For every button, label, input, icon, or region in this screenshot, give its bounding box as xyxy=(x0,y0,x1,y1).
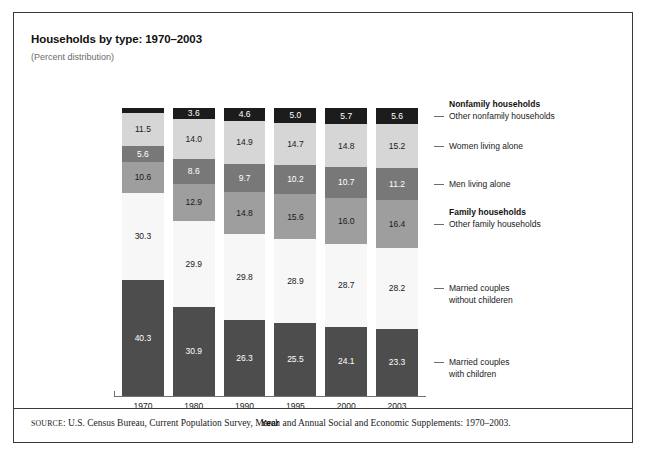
legend-group-title: Family households xyxy=(449,207,526,217)
bar-segment-value: 8.6 xyxy=(188,167,200,176)
bar-stack: 1.711.55.610.630.340.3 xyxy=(122,108,164,396)
bar-segment[interactable]: 5.0 xyxy=(274,108,316,122)
bar-segment-value: 14.0 xyxy=(185,135,202,144)
bar-column[interactable]: 5.615.211.216.428.223.3 xyxy=(376,108,418,396)
chart-subtitle: (Percent distribution) xyxy=(31,52,202,62)
chart-plot-area: 1.711.55.610.630.340.33.614.08.612.929.9… xyxy=(109,108,429,408)
bar-segment-value: 16.4 xyxy=(389,220,406,229)
bar-segment[interactable]: 10.6 xyxy=(122,162,164,193)
bar-segment-value: 14.7 xyxy=(287,140,304,149)
bar-segment[interactable]: 14.8 xyxy=(224,192,266,235)
legend-entry[interactable]: Other family households xyxy=(434,219,541,231)
bar-segment[interactable]: 29.8 xyxy=(224,234,266,320)
bar-segment[interactable]: 3.6 xyxy=(173,108,215,118)
legend-leader-dash xyxy=(434,184,444,185)
stacked-bar-series-container: 1.711.55.610.630.340.33.614.08.612.929.9… xyxy=(122,108,418,396)
bar-segment[interactable]: 24.1 xyxy=(325,327,367,396)
bar-segment[interactable]: 25.5 xyxy=(274,323,316,396)
bar-segment[interactable]: 14.7 xyxy=(274,123,316,165)
bar-segment[interactable]: 8.6 xyxy=(173,159,215,184)
bar-segment[interactable]: 10.7 xyxy=(325,167,367,198)
bar-segment[interactable]: 26.3 xyxy=(224,320,266,396)
bar-segment[interactable]: 29.9 xyxy=(173,221,215,307)
legend-leader-dash xyxy=(434,116,444,117)
bar-segment[interactable]: 11.5 xyxy=(122,113,164,146)
x-axis-label: 2000 xyxy=(325,401,367,411)
bar-segment[interactable]: 40.3 xyxy=(122,280,164,396)
bar-column[interactable]: 5.014.710.215.628.925.5 xyxy=(274,108,316,396)
bar-segment-value: 5.6 xyxy=(391,112,403,121)
bar-segment[interactable]: 23.3 xyxy=(376,329,418,396)
bar-segment[interactable]: 28.2 xyxy=(376,248,418,329)
legend-entry[interactable]: Other nonfamily households xyxy=(434,111,555,123)
x-axis-tick-labels: 197019801990199520002003 xyxy=(122,401,418,411)
x-axis-label: 1990 xyxy=(224,401,266,411)
legend-entry[interactable]: Married coupleswithout childeren xyxy=(434,283,513,306)
bar-column[interactable]: 3.614.08.612.929.930.9 xyxy=(173,108,215,396)
legend-entry[interactable]: Men living alone xyxy=(434,179,510,191)
bar-segment[interactable]: 30.3 xyxy=(122,193,164,280)
bar-segment[interactable]: 9.7 xyxy=(224,164,266,192)
bar-segment[interactable]: 12.9 xyxy=(173,184,215,221)
bar-segment-value: 5.0 xyxy=(289,111,301,120)
legend-leader-dash xyxy=(434,288,444,289)
bar-segment-value: 29.9 xyxy=(185,260,202,269)
bar-segment[interactable]: 15.6 xyxy=(274,194,316,239)
legend-label: Married coupleswithout childeren xyxy=(449,283,513,306)
bar-segment-value: 15.6 xyxy=(287,213,304,222)
bar-segment-value: 23.3 xyxy=(389,358,406,367)
x-axis-label: 2003 xyxy=(376,401,418,411)
legend-leader-dash xyxy=(434,362,444,363)
bar-segment[interactable]: 28.7 xyxy=(325,244,367,327)
bar-segment[interactable]: 5.6 xyxy=(122,146,164,162)
bar-segment-value: 11.2 xyxy=(389,180,405,189)
bar-stack: 5.014.710.215.628.925.5 xyxy=(274,108,316,396)
legend-label-line2: with children xyxy=(449,369,509,381)
bar-stack: 5.615.211.216.428.223.3 xyxy=(376,108,418,396)
bar-stack: 5.714.810.716.028.724.1 xyxy=(325,108,367,396)
bar-segment[interactable]: 16.0 xyxy=(325,198,367,244)
source-note: SOURCE: U.S. Census Bureau, Current Popu… xyxy=(31,418,511,428)
legend-label: Men living alone xyxy=(449,179,510,191)
bar-segment[interactable]: 30.9 xyxy=(173,307,215,396)
bar-stack: 3.614.08.612.929.930.9 xyxy=(173,108,215,396)
bar-segment-value: 5.6 xyxy=(137,150,149,159)
figure-frame: Households by type: 1970–2003 (Percent d… xyxy=(13,12,633,443)
legend-label: Other nonfamily households xyxy=(449,111,555,123)
bar-segment[interactable]: 28.9 xyxy=(274,239,316,322)
bar-column[interactable]: 5.714.810.716.028.724.1 xyxy=(325,108,367,396)
bar-segment-value: 10.7 xyxy=(338,178,355,187)
bar-segment-value: 29.8 xyxy=(236,273,253,282)
bar-segment[interactable]: 16.4 xyxy=(376,200,418,247)
bar-segment-value: 16.0 xyxy=(338,217,355,226)
bar-segment[interactable]: 14.8 xyxy=(325,124,367,167)
bar-segment-value: 30.9 xyxy=(185,347,202,356)
legend-label-line2: without childeren xyxy=(449,295,513,307)
x-axis-label: 1995 xyxy=(274,401,316,411)
title-block: Households by type: 1970–2003 (Percent d… xyxy=(31,33,202,62)
bar-segment[interactable]: 14.9 xyxy=(224,121,266,164)
bar-segment-value: 10.6 xyxy=(135,173,152,182)
bar-segment-value: 10.2 xyxy=(287,175,304,184)
bar-segment-value: 11.5 xyxy=(135,125,151,134)
legend-entry[interactable]: Married coupleswith children xyxy=(434,357,509,380)
bar-segment-value: 28.7 xyxy=(338,281,355,290)
bar-segment[interactable]: 10.2 xyxy=(274,165,316,194)
bar-segment[interactable]: 5.7 xyxy=(325,108,367,124)
bar-segment-value: 14.8 xyxy=(338,142,355,151)
bar-column[interactable]: 1.711.55.610.630.340.3 xyxy=(122,108,164,396)
bar-segment[interactable]: 4.6 xyxy=(224,108,266,121)
bar-segment-value: 15.2 xyxy=(389,142,406,151)
bar-segment-value: 24.1 xyxy=(338,357,355,366)
bar-segment[interactable]: 11.2 xyxy=(376,168,418,200)
bar-segment[interactable]: 14.0 xyxy=(173,119,215,159)
bar-segment[interactable]: 15.2 xyxy=(376,124,418,168)
bar-segment-value: 26.3 xyxy=(236,354,253,363)
legend-entry[interactable]: Women living alone xyxy=(434,141,523,153)
bar-column[interactable]: 4.614.99.714.829.826.3 xyxy=(224,108,266,396)
bar-segment[interactable]: 5.6 xyxy=(376,108,418,124)
bar-segment-value: 14.8 xyxy=(236,209,253,218)
legend-leader-dash xyxy=(434,146,444,147)
legend-label: Married coupleswith children xyxy=(449,357,509,380)
bar-segment-value: 28.2 xyxy=(389,284,406,293)
